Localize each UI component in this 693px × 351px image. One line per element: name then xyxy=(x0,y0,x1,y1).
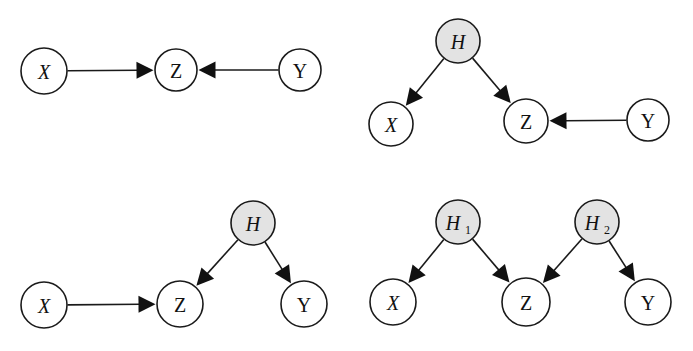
node-label-b-z: Z xyxy=(520,111,532,133)
arrow-head-panel-b-2 xyxy=(550,112,567,129)
dag-node-b-z[interactable]: Z xyxy=(504,99,548,143)
node-label-c-y: Y xyxy=(297,294,311,316)
edge-line-panel-b-1 xyxy=(473,58,502,92)
edge-line-panel-c-0 xyxy=(68,304,141,305)
node-label-a-y: Y xyxy=(293,60,307,82)
arrow-head-panel-d-3 xyxy=(619,262,635,281)
arrow-head-panel-d-0 xyxy=(408,264,425,283)
node-label-d-z: Z xyxy=(520,292,532,314)
node-label-b-x: X xyxy=(384,114,398,136)
dag-node-a-z[interactable]: Z xyxy=(155,49,197,91)
edge-line-panel-d-1 xyxy=(473,239,500,271)
arrow-head-panel-d-2 xyxy=(543,265,561,283)
node-label-a-x: X xyxy=(37,61,51,83)
edge-line-panel-d-2 xyxy=(553,239,582,272)
edge-line-panel-d-3 xyxy=(609,241,627,269)
edge-line-panel-c-2 xyxy=(265,242,283,271)
arrow-head-panel-b-0 xyxy=(406,87,423,106)
arrow-head-panel-c-0 xyxy=(138,296,155,313)
dag-node-a-x[interactable]: X xyxy=(21,48,67,94)
dag-panel-top-left: XZY xyxy=(21,48,321,94)
dag-node-b-y[interactable]: Y xyxy=(627,99,669,141)
arrow-head-panel-c-2 xyxy=(275,264,291,283)
dag-panel-bottom-right: H1H2XZY xyxy=(370,200,671,326)
node-subscript-d-h2: 2 xyxy=(604,223,610,237)
edge-line-panel-b-0 xyxy=(415,59,444,95)
arrow-head-panel-d-1 xyxy=(492,264,509,282)
node-label-d-h2: H xyxy=(584,212,601,234)
dag-node-d-z[interactable]: Z xyxy=(502,278,550,326)
dag-node-d-y[interactable]: Y xyxy=(625,279,671,325)
node-label-c-x: X xyxy=(37,295,51,317)
node-label-d-y: Y xyxy=(641,292,655,314)
dag-node-d-x[interactable]: X xyxy=(370,279,416,325)
dag-node-b-x[interactable]: X xyxy=(369,102,413,146)
edge-line-panel-c-1 xyxy=(206,240,238,275)
arrow-head-panel-a-1 xyxy=(199,62,216,79)
edge-line-panel-b-2 xyxy=(565,120,627,121)
edge-line-panel-a-0 xyxy=(68,70,139,71)
arrow-head-panel-a-0 xyxy=(136,62,153,79)
causal-dag-figure: XZYHXZYHXZYH1H2XZY xyxy=(0,0,693,351)
node-label-d-x: X xyxy=(386,292,400,314)
dag-panel-top-right: HXZY xyxy=(369,19,669,146)
node-label-d-h1: H xyxy=(445,212,462,234)
dag-node-d-h1[interactable]: H1 xyxy=(436,200,480,244)
arrow-head-panel-b-1 xyxy=(493,85,510,103)
dag-node-c-x[interactable]: X xyxy=(21,282,67,328)
dag-panel-bottom-left: HXZY xyxy=(21,201,327,328)
dag-canvas: XZYHXZYHXZYH1H2XZY xyxy=(0,0,693,351)
dag-node-c-z[interactable]: Z xyxy=(157,281,203,327)
dag-node-c-y[interactable]: Y xyxy=(281,281,327,327)
edge-line-panel-d-0 xyxy=(418,239,444,271)
node-subscript-d-h1: 1 xyxy=(465,223,471,237)
node-label-a-z: Z xyxy=(170,60,182,82)
node-label-c-z: Z xyxy=(174,294,186,316)
dag-node-b-h[interactable]: H xyxy=(436,19,480,63)
node-label-b-y: Y xyxy=(641,110,655,132)
node-label-c-h: H xyxy=(245,213,262,235)
dag-node-d-h2[interactable]: H2 xyxy=(575,200,619,244)
dag-node-c-h[interactable]: H xyxy=(231,201,275,245)
edge-group-panel-d xyxy=(408,239,634,283)
dag-node-a-y[interactable]: Y xyxy=(279,49,321,91)
node-label-b-h: H xyxy=(450,31,467,53)
